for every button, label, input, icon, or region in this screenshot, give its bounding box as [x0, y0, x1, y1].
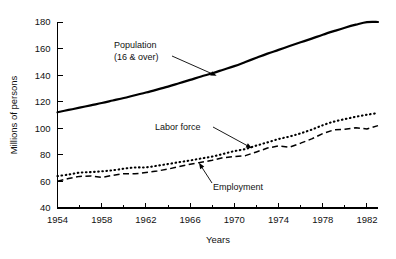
y-axis-tick-label: 100 [35, 123, 51, 134]
population-annotation: Population (16 & over) [114, 40, 217, 76]
population-annotation-label-line2: (16 & over) [114, 52, 159, 62]
x-axis-tick-label: 1954 [47, 214, 68, 225]
y-axis-tick-label: 180 [35, 16, 51, 27]
series-employment-line [58, 126, 379, 182]
data-series-group [58, 22, 379, 181]
y-axis-tick-label: 80 [40, 149, 51, 160]
y-axis-tick-label: 60 [40, 176, 51, 187]
x-axis-tick-label: 1978 [312, 214, 333, 225]
labor-force-annotation-label: Labor force [155, 122, 201, 132]
x-axis-tick-label: 1974 [268, 214, 289, 225]
y-axis-tick-label: 160 [35, 43, 51, 54]
y-axis-tick-label: 120 [35, 96, 51, 107]
employment-population-line-chart: 406080100120140160180 195419581962196619… [0, 0, 396, 259]
chart-container: 406080100120140160180 195419581962196619… [0, 0, 396, 259]
x-axis-tick-label: 1958 [91, 214, 112, 225]
plot-axes [58, 22, 379, 208]
series-labor-force-line [58, 113, 379, 176]
labor-force-annotation-leader [213, 127, 249, 147]
y-axis-tick-label: 140 [35, 70, 51, 81]
employment-annotation-arrowhead [199, 163, 204, 169]
employment-annotation-leader [201, 166, 212, 183]
y-axis-title: Millions of persons [8, 75, 19, 154]
x-axis-tick-label: 1982 [356, 214, 377, 225]
labor-force-annotation-arrowhead [246, 143, 252, 148]
x-axis-tick-label: 1966 [180, 214, 201, 225]
x-axis-tick-label: 1962 [135, 214, 156, 225]
population-annotation-leader [172, 56, 214, 75]
x-axis-tick-labels: 19541958196219661970197419781982 [47, 214, 378, 225]
x-axis-title: Years [206, 234, 230, 245]
axis-lines [58, 22, 379, 208]
population-annotation-label-line1: Population [114, 40, 157, 50]
series-population-line [58, 22, 379, 112]
employment-annotation-label: Employment [213, 182, 264, 192]
y-axis-tick-label: 40 [40, 202, 51, 213]
employment-annotation: Employment [199, 163, 264, 192]
labor-force-annotation: Labor force [155, 122, 252, 148]
y-axis-tick-labels: 406080100120140160180 [35, 16, 51, 213]
x-axis-tick-label: 1970 [224, 214, 245, 225]
